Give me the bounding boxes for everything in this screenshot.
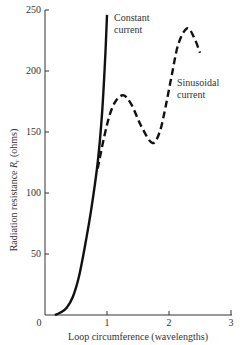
xtick-2: 2 [167,317,172,328]
xtick-0: 0 [37,317,42,328]
ytick-250: 250 [26,4,41,15]
x-ticks: 0 1 2 3 [37,310,234,328]
constant-current-label-2: current [114,24,143,35]
y-ticks: 250 200 150 100 50 [26,4,49,259]
xtick-3: 3 [229,317,234,328]
chart: 250 200 150 100 50 0 1 2 3 Loop circumfe… [0,0,240,345]
xtick-1: 1 [105,317,110,328]
sinusoidal-current-label: Sinusoidal [177,77,219,88]
ytick-150: 150 [26,126,41,137]
ytick-100: 100 [26,187,41,198]
constant-current-label: Constant [114,12,150,23]
ytick-200: 200 [26,65,41,76]
sinusoidal-current-label-2: current [177,89,206,100]
ytick-50: 50 [31,248,41,259]
x-axis-title: Loop circumference (wavelengths) [68,331,208,343]
y-axis-title: Radiation resistance Rr (ohms) [8,129,21,252]
